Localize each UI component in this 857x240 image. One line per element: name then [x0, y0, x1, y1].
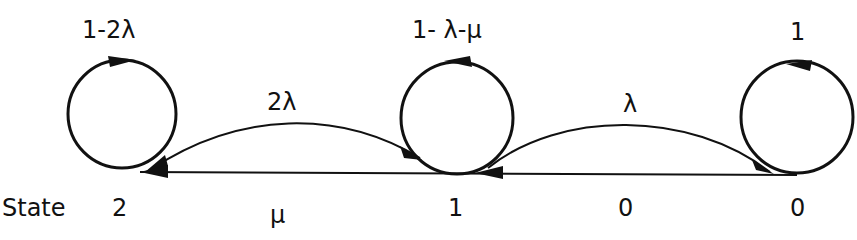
self-loop-state-2 [68, 60, 176, 168]
transition-label-mu: μ [270, 203, 285, 227]
transition-label-lambda: λ [623, 92, 637, 116]
markov-state-diagram: 1-2λ 1- λ-μ 1 2λ λ μ 0 State 2 1 0 [0, 0, 857, 240]
transition-label-2lambda: 2λ [267, 90, 296, 114]
arc-0-to-1 [488, 125, 770, 172]
self-loop-label-state-0: 1 [790, 20, 805, 44]
arc-1-to-2 [150, 123, 420, 170]
state-row-label: State [2, 196, 66, 220]
arrowhead-loop-1 [444, 56, 472, 67]
self-loop-state-0 [741, 61, 853, 173]
state-label-0: 0 [790, 196, 805, 220]
transition-label-0: 0 [618, 196, 633, 220]
state-label-1: 1 [448, 196, 463, 220]
self-loop-label-state-2: 1-2λ [82, 18, 135, 42]
state-label-2: 2 [112, 196, 127, 220]
self-loop-label-state-1: 1- λ-μ [412, 18, 482, 42]
